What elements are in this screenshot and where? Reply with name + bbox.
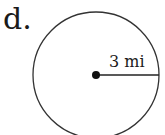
radius-label: 3 mi (109, 52, 145, 71)
circle-figure: 3 mi (0, 0, 165, 135)
center-dot (92, 71, 100, 79)
